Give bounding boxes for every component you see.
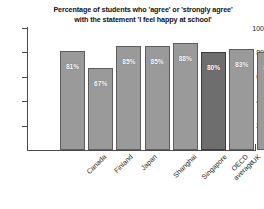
bar-value-label: 80%: [201, 64, 226, 71]
chart-title: Percentage of students who 'agree' or 's…: [30, 5, 256, 24]
x-axis-label: Singapore: [200, 153, 228, 181]
bar-value-label: 83%: [229, 61, 254, 68]
chart-title-line-1: Percentage of students who 'agree' or 's…: [30, 5, 256, 15]
x-axis-label-line: Canada: [85, 153, 108, 176]
x-axis-label-line: Finland: [113, 153, 135, 175]
bar-value-label: 85%: [145, 58, 170, 65]
x-axis-label: Japan: [140, 153, 159, 172]
bar-chart: Percentage of students who 'agree' or 's…: [0, 0, 264, 209]
bar-value-label: 88%: [173, 55, 198, 62]
bar-value-label: 81%: [60, 63, 85, 70]
bar-value-label: 85%: [116, 58, 141, 65]
plot-area: 81%67%85%85%88%80%83%80%: [28, 28, 256, 150]
x-axis-label-line: Singapore: [200, 153, 228, 181]
x-axis-label-line: Shanghai: [171, 153, 197, 179]
bar-value-label: 67%: [88, 80, 113, 87]
x-axis-line: [27, 150, 256, 151]
x-axis-label-line: Japan: [140, 153, 159, 172]
bar-value-label: 80%: [257, 64, 264, 71]
x-axis-label: Finland: [113, 153, 135, 175]
chart-title-line-2: with the statement 'I feel happy at scho…: [30, 15, 256, 25]
x-axis-label: Shanghai: [171, 153, 197, 179]
x-axis-label: Canada: [85, 153, 108, 176]
